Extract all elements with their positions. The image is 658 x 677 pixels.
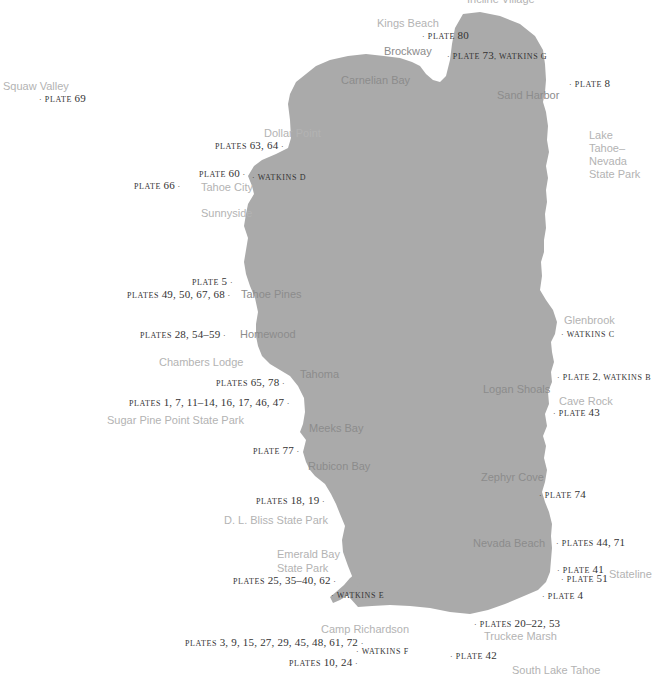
plate-marker-25-35-40-62[interactable]: plates 25, 35–40, 62 · <box>233 575 337 587</box>
plate-marker-69[interactable]: · plate 69 <box>39 93 86 105</box>
watkins-c-marker[interactable]: · watkins c <box>561 329 615 340</box>
place-tahoe-city: Tahoe City <box>201 181 253 194</box>
plate-marker-65-78[interactable]: plates 65, 78 · <box>216 377 285 389</box>
place-rubicon-bay: Rubicon Bay <box>308 460 370 473</box>
place-nevada-beach: Nevada Beach <box>473 537 545 550</box>
plate-marker-66[interactable]: plate 66 · <box>134 180 181 192</box>
plate-marker-43[interactable]: · plate 43 <box>553 407 600 419</box>
plate-marker-2-watkins-b[interactable]: · plate 2, watkins b <box>557 371 651 383</box>
plate-marker-49-50-67-68[interactable]: plates 49, 50, 67, 68 · <box>127 289 231 301</box>
place-lake-tahoe-nevada-state-park: Lake Tahoe–Nevada State Park <box>589 129 649 181</box>
place-tahoe-pines: Tahoe Pines <box>241 288 302 301</box>
plate-marker-44-71[interactable]: · plates 44, 71 <box>556 537 625 549</box>
plate-marker-18-19[interactable]: plates 18, 19 · <box>256 495 325 507</box>
place-incline-village: Incline Village <box>467 0 535 6</box>
plate-marker-10-24[interactable]: plates 10, 24 · <box>289 657 358 669</box>
place-logan-shoals: Logan Shoals <box>483 383 550 396</box>
plate-marker-42[interactable]: · plate 42 <box>450 650 497 662</box>
plate-marker-51[interactable]: · plate 51 <box>561 573 608 585</box>
watkins-e-marker[interactable]: · watkins e <box>331 590 384 601</box>
place-zephyr-cove: Zephyr Cove <box>481 471 544 484</box>
plate-marker-77[interactable]: plate 77 · <box>253 445 300 457</box>
lake-tahoe-map: Incline Village Kings Beach Brockway Car… <box>0 0 658 677</box>
place-dl-bliss: D. L. Bliss State Park <box>224 514 328 527</box>
plate-marker-20-22-53[interactable]: · plates 20–22, 53 <box>474 618 560 630</box>
plate-marker-1-7-11-14-16-17-46-47[interactable]: plates 1, 7, 11–14, 16, 17, 46, 47 · <box>129 397 290 409</box>
plate-marker-63-64[interactable]: plates 63, 64 · <box>215 140 284 152</box>
place-truckee-marsh: Truckee Marsh <box>484 630 557 643</box>
place-homewood: Homewood <box>240 328 296 341</box>
plate-marker-5[interactable]: plate 5 · <box>192 276 233 288</box>
plate-marker-8[interactable]: · plate 8 <box>569 78 610 90</box>
plate-marker-3-9-15-27-29-45-48-61-72[interactable]: plates 3, 9, 15, 27, 29, 45, 48, 61, 72 … <box>185 637 364 649</box>
place-chambers-lodge: Chambers Lodge <box>159 356 243 369</box>
place-meeks-bay: Meeks Bay <box>309 422 363 435</box>
plate-marker-4[interactable]: · plate 4 <box>542 590 583 602</box>
place-sunnyside: Sunnyside <box>201 207 252 220</box>
plate-marker-74[interactable]: · plate 74 <box>539 489 586 501</box>
place-tahoma: Tahoma <box>300 368 339 381</box>
plate-marker-60[interactable]: plate 60 · <box>199 168 246 180</box>
place-camp-richardson: Camp Richardson <box>321 623 409 636</box>
watkins-d-marker[interactable]: · watkins d <box>252 172 306 183</box>
place-emerald-bay: Emerald Bay <box>277 548 340 561</box>
plate-marker-73-watkins-g[interactable]: · plate 73, watkins g <box>447 50 547 62</box>
place-kings-beach: Kings Beach <box>377 17 439 30</box>
place-sugar-pine-point: Sugar Pine Point State Park <box>107 414 244 427</box>
plate-marker-80[interactable]: · plate 80 <box>422 30 469 42</box>
watkins-f-marker[interactable]: · watkins f <box>356 646 409 657</box>
place-south-lake-tahoe: South Lake Tahoe <box>512 664 600 677</box>
plate-marker-28-54-59[interactable]: plates 28, 54–59 · <box>140 329 226 341</box>
place-stateline: Stateline <box>609 568 652 581</box>
place-carnelian-bay: Carnelian Bay <box>341 74 410 87</box>
place-squaw-valley: Squaw Valley <box>3 80 69 93</box>
place-sand-harbor: Sand Harbor <box>497 89 559 102</box>
place-glenbrook: Glenbrook <box>564 314 615 327</box>
place-brockway: Brockway <box>384 45 432 58</box>
